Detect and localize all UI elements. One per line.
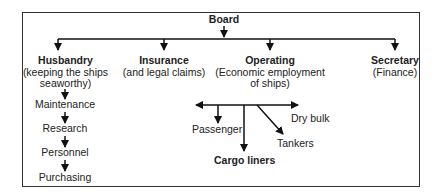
node-research: Research [25, 123, 105, 134]
insurance-subtitle: (and legal claims) [119, 67, 209, 78]
secretary-subtitle: (Finance) [365, 67, 425, 78]
node-maintenance: Maintenance [25, 99, 105, 110]
node-board: Board [204, 14, 244, 25]
node-operating: Operating [215, 55, 325, 66]
node-secretary: Secretary [365, 55, 425, 66]
node-purchasing: Purchasing [25, 172, 105, 183]
node-personnel: Personnel [25, 147, 105, 158]
node-passenger: Passenger [192, 124, 252, 135]
node-dry-bulk: Dry bulk [291, 113, 341, 124]
operating-subtitle-2: of ships) [215, 78, 325, 89]
node-insurance: Insurance [119, 55, 209, 66]
node-husbandry: Husbandry [18, 55, 113, 66]
node-cargo-liners: Cargo liners [214, 155, 284, 166]
node-tankers: Tankers [277, 138, 327, 149]
husbandry-subtitle-2: seaworthy) [18, 78, 113, 89]
